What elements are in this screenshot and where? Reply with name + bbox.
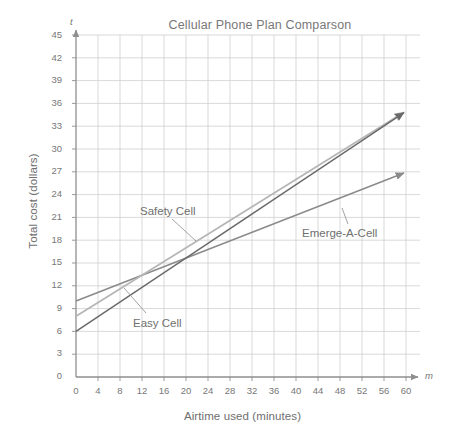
- annotation-leader-emerge-a-cell: [342, 208, 348, 224]
- horizontal-gridlines: [76, 35, 420, 354]
- chart-plot-area: [0, 0, 450, 438]
- annotation-label-emerge-a-cell: Emerge-A-Cell: [302, 227, 377, 239]
- chart-figure: Cellular Phone Plan Comparson Total cost…: [0, 0, 450, 438]
- annotation-leader-safety-cell: [172, 219, 196, 241]
- series-line-easy-cell: [76, 113, 404, 332]
- axis-tick-marks: [72, 35, 406, 381]
- annotation-label-safety-cell: Safety Cell: [140, 205, 196, 217]
- annotation-label-easy-cell: Easy Cell: [133, 317, 182, 329]
